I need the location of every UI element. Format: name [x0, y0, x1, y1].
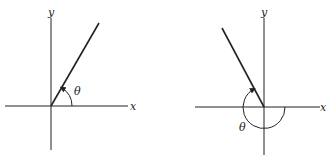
left-angle-label: θ	[74, 85, 81, 98]
right-x-label: x	[320, 101, 327, 114]
right-y-label: y	[260, 6, 268, 19]
left-figure: θ x y	[5, 6, 137, 150]
right-terminal-ray	[222, 28, 264, 107]
right-angle-label: θ	[239, 121, 246, 134]
left-angle-arc	[62, 88, 73, 106]
left-y-label: y	[47, 6, 55, 19]
angle-diagram: θ x y θ x y	[0, 0, 329, 158]
right-figure: θ x y	[195, 6, 327, 155]
left-x-label: x	[130, 100, 137, 113]
